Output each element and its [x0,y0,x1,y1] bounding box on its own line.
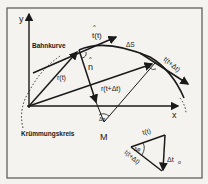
angle-label-m: Δφ [99,116,106,122]
frame [7,8,202,178]
tangent-label-t-dt: t(t+Δt) [162,55,182,74]
inset-vector-triangle: Δφ t(t) t(t+Δt) Δt o [123,127,181,171]
inset-label-t: t(t) [141,127,151,137]
normal-vector-n [79,50,96,102]
tangent-label-t: t(t) [92,31,102,40]
inset-label-delta-t: Δt [167,156,174,163]
position-label-r-t-dt: r(t+Δt) [101,85,121,93]
right-angle-mark-1 [82,52,86,58]
inset-angle-label: Δφ [134,146,141,152]
center-label-m: M [100,132,108,142]
x-axis-label: x [172,110,177,120]
inset-angle-arc [142,143,144,155]
arc-length-label: ΔS [126,41,135,48]
kinematics-diagram: y x Δφ Bahnkurve ^ t(t) ΔS t(t+Δt) ^ n r… [0,0,208,184]
y-axis-label: y [19,14,24,24]
path-curve-label: Bahnkurve [32,42,66,49]
normal-label: n [88,62,93,72]
inset-label-delta-t-sub: o [178,159,181,165]
tangent-label-t-hat: ^ [93,24,96,30]
curvature-circle-right [180,98,186,114]
curvature-circle-label: Krümmungskreis [21,130,75,138]
inset-vector-delta-t [163,135,165,170]
position-label-r-t: r(t) [57,74,66,82]
